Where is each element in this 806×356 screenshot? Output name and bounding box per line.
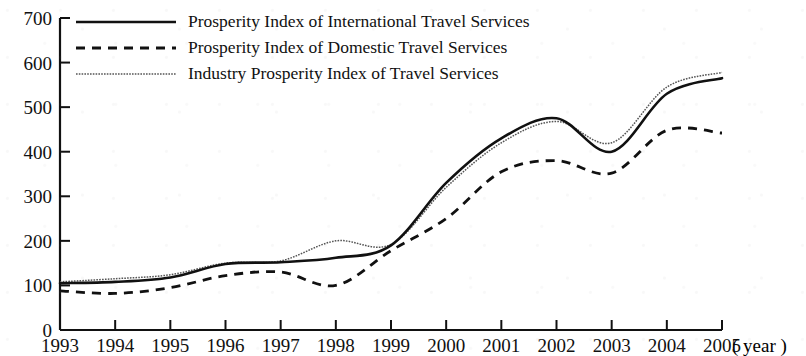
series-line-dotted [60, 72, 722, 281]
y-tick-label-300: 300 [24, 186, 53, 207]
x-tick-label-1997: 1997 [262, 335, 300, 356]
series-group [60, 72, 722, 293]
x-tick-group [115, 320, 722, 330]
y-tick-label-600: 600 [24, 53, 53, 74]
y-tick-label-200: 200 [24, 231, 53, 252]
y-tick-label-100: 100 [24, 275, 53, 296]
x-tick-label-1994: 1994 [96, 335, 135, 356]
y-tick-label-500: 500 [24, 97, 53, 118]
x-tick-label-2001: 2001 [482, 335, 520, 356]
y-tick-label-400: 400 [24, 142, 53, 163]
x-axis: 1993199419951996199719981999200020012002… [41, 320, 787, 356]
x-tick-label-1996: 1996 [207, 335, 245, 356]
x-tick-label-1998: 1998 [317, 335, 355, 356]
x-axis-unit-label: ( year ) [732, 335, 787, 356]
legend-label-1: Prosperity Index of Domestic Travel Serv… [188, 37, 508, 57]
x-tick-label-2002: 2002 [538, 335, 576, 356]
series-line-solid [60, 78, 722, 283]
y-tick-label-group: 0100200300400500600700 [24, 8, 53, 341]
x-tick-label-1995: 1995 [151, 335, 189, 356]
series-line-dashed [60, 128, 722, 294]
chart-legend: Prosperity Index of International Travel… [76, 11, 530, 83]
x-tick-label-2003: 2003 [593, 335, 631, 356]
x-tick-label-group: 1993199419951996199719981999200020012002… [41, 335, 741, 356]
legend-label-2: Industry Prosperity Index of Travel Serv… [188, 63, 499, 83]
legend-label-0: Prosperity Index of International Travel… [188, 11, 530, 31]
x-tick-label-1993: 1993 [41, 335, 79, 356]
line-chart: 0100200300400500600700 19931994199519961… [0, 0, 806, 356]
x-tick-label-2004: 2004 [648, 335, 687, 356]
x-tick-label-2000: 2000 [427, 335, 465, 356]
x-tick-label-1999: 1999 [372, 335, 410, 356]
y-tick-label-700: 700 [24, 8, 53, 29]
chart-canvas: 0100200300400500600700 19931994199519961… [0, 0, 806, 356]
